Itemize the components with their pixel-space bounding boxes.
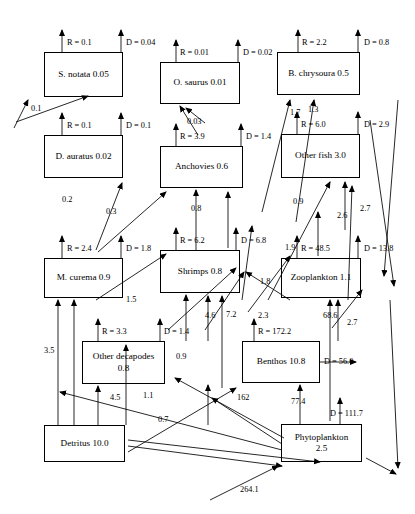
respiration-label-other_decapodes: R = 3.3	[102, 327, 127, 336]
node-box-other_decapodes: Other decapodes 0.8	[82, 341, 165, 384]
flow-label: 1.5	[126, 295, 136, 304]
node-box-anchovies: Anchovies 0.6	[160, 146, 243, 188]
node-box-d_auratus: D. auratus 0.02	[44, 135, 123, 178]
node-box-zooplankton: Zooplankton 1.1	[281, 258, 361, 298]
food-web-diagram: S. notata 0.05O. saurus 0.01B. chrysoura…	[0, 0, 415, 514]
flow-label: 1.1	[143, 391, 153, 400]
node-label-anchovies: Anchovies 0.6	[173, 161, 230, 172]
flow-label: 4.5	[110, 393, 120, 402]
node-label-o_saurus: O. saurus 0.01	[171, 77, 228, 88]
respiration-label-m_curema: R = 2.4	[67, 244, 92, 253]
flow-label: 264.1	[240, 485, 259, 494]
detritus-export-label-s_notata: D = 0.04	[126, 38, 155, 47]
flow-label: 0.1	[31, 104, 41, 113]
respiration-label-shrimps: R = 6.2	[180, 236, 205, 245]
flow-label: 0.9	[293, 197, 303, 206]
node-box-other_fish: Other fish 3.0	[281, 134, 360, 178]
node-label-phytoplankton: Phytoplankton 2.5	[293, 432, 351, 454]
respiration-label-benthos: R = 172.2	[258, 327, 291, 336]
flow-label: 0.7	[158, 415, 168, 424]
flow-label: 2.6	[337, 211, 347, 220]
respiration-label-s_notata: R = 0.1	[67, 38, 92, 47]
node-label-d_auratus: D. auratus 0.02	[53, 151, 113, 162]
node-box-o_saurus: O. saurus 0.01	[160, 62, 240, 104]
flow-label: 1.9	[285, 243, 295, 252]
flow-label: 0.2	[62, 195, 72, 204]
respiration-label-b_chrysoura: R = 2.2	[302, 38, 327, 47]
flow-label: 1.3	[308, 105, 318, 114]
node-label-m_curema: M. curema 0.9	[55, 272, 113, 283]
detritus-export-label-shrimps: D = 6.8	[241, 236, 266, 245]
detritus-export-label-other_decapodes: D = 1.4	[164, 327, 189, 336]
node-box-shrimps: Shrimps 0.8	[160, 250, 240, 293]
respiration-label-o_saurus: R = 0.01	[180, 48, 209, 57]
respiration-label-d_auratus: R = 0.1	[67, 121, 92, 130]
flow-label: 1.7	[290, 108, 300, 117]
flow-label: 0.03	[187, 117, 202, 126]
node-box-s_notata: S. notata 0.05	[44, 52, 123, 97]
node-label-benthos: Benthos 10.8	[255, 356, 308, 367]
detritus-export-label-m_curema: D = 1.8	[126, 244, 151, 253]
flow-label: 2.3	[258, 311, 268, 320]
node-box-detritus: Detritus 10.0	[44, 425, 125, 462]
flow-label: 2.7	[347, 318, 357, 327]
flow-label: 0.3	[106, 207, 116, 216]
respiration-label-zooplankton: R = 48.5	[301, 244, 330, 253]
node-box-benthos: Benthos 10.8	[242, 341, 320, 383]
detritus-export-label-o_saurus: D = 0.02	[243, 48, 272, 57]
flow-label: 7.2	[226, 310, 236, 319]
node-label-b_chrysoura: B. chrysoura 0.5	[286, 68, 351, 79]
node-label-other_decapodes: Other decapodes 0.8	[91, 351, 156, 373]
detritus-export-label-d_auratus: D = 0.1	[126, 121, 151, 130]
flow-label: 162	[237, 393, 249, 402]
flow-label: 2.7	[360, 204, 370, 213]
node-label-detritus: Detritus 10.0	[59, 438, 111, 449]
node-label-s_notata: S. notata 0.05	[56, 69, 111, 80]
detritus-export-label-benthos: D = 56.0	[324, 357, 353, 366]
flow-label: 0.9	[176, 352, 186, 361]
flow-label: 3.5	[44, 346, 54, 355]
node-label-shrimps: Shrimps 0.8	[176, 266, 224, 277]
flow-label: 68.6	[323, 311, 338, 320]
detritus-export-label-b_chrysoura: D = 0.8	[364, 38, 389, 47]
node-box-phytoplankton: Phytoplankton 2.5	[281, 424, 362, 462]
detritus-export-label-phytoplankton: D = 111.7	[330, 409, 363, 418]
node-box-m_curema: M. curema 0.9	[44, 258, 123, 298]
node-label-zooplankton: Zooplankton 1.1	[289, 272, 354, 283]
detritus-export-label-zooplankton: D = 13.8	[364, 244, 393, 253]
respiration-label-anchovies: R = 3.9	[180, 132, 205, 141]
flow-label: 1.8	[260, 277, 270, 286]
detritus-export-label-other_fish: D = 2.9	[364, 120, 389, 129]
flow-label: 0.8	[191, 204, 201, 213]
node-label-other_fish: Other fish 3.0	[293, 150, 348, 161]
detritus-export-label-anchovies: D = 1.4	[246, 132, 271, 141]
flow-label: 4.6	[205, 311, 215, 320]
respiration-label-other_fish: R = 6.0	[301, 120, 326, 129]
node-box-b_chrysoura: B. chrysoura 0.5	[277, 52, 360, 95]
flow-label: 77.4	[291, 397, 306, 406]
